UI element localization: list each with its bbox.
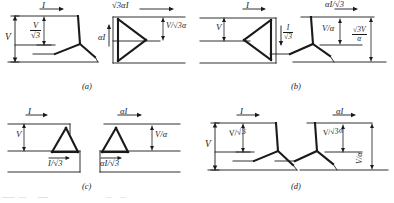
- b-secondary-line-voltage-den: α: [352, 34, 367, 43]
- b-secondary-conductors: [293, 17, 386, 62]
- figure-transformer-connections: I V V √3 √3αI αI V/√3α (a) I V I √3 αI/√…: [0, 0, 394, 203]
- a-primary-wye-star: [55, 16, 95, 57]
- d-secondary-wye-tails: [275, 161, 337, 170]
- a-primary-phase-voltage-num: V: [30, 21, 41, 30]
- a-primary-line-voltage-label: V: [5, 33, 11, 43]
- a-secondary-delta: [118, 19, 146, 61]
- b-primary-line-voltage-label: V: [216, 23, 222, 32]
- b-primary-delta: [244, 20, 271, 60]
- a-secondary-line-current-arrow: [140, 7, 174, 11]
- b-secondary-line-voltage-label: √3V α: [352, 26, 367, 42]
- b-secondary-wye-tails: [270, 54, 334, 62]
- a-primary-line-current-label: I: [42, 1, 45, 10]
- panel-caption-b: (b): [291, 81, 301, 91]
- a-primary-wye-tails: [33, 54, 98, 62]
- c-primary-phase-current-label: I/√3: [48, 159, 63, 168]
- c-primary-line-voltage-label: V: [16, 130, 22, 139]
- a-secondary-voltage-dimension: [161, 18, 165, 40]
- b-primary-line-current-label: I: [246, 1, 249, 10]
- a-primary-phase-voltage-label: V √3: [30, 21, 41, 39]
- b-primary-phase-current-num: I: [283, 24, 293, 32]
- cropped-caption-remnant: [2, 195, 130, 200]
- b-secondary-phase-voltage-label: V/α: [322, 24, 334, 33]
- b-secondary-line-current-label: αI/√3: [325, 0, 344, 9]
- c-primary-line-current-label: I: [28, 107, 31, 116]
- c-secondary-phase-current-label: αI/√3: [100, 159, 119, 168]
- panel-caption-c: (c): [82, 181, 91, 191]
- d-secondary-conductors: [300, 123, 388, 170]
- d-primary-V-dimension: [211, 123, 219, 170]
- diagram-lines: [0, 0, 394, 203]
- a-secondary-phase-current-label: αI: [98, 33, 106, 42]
- a-secondary-phase-current-arrow: [107, 24, 111, 46]
- panel-caption-a: (a): [82, 81, 92, 91]
- d-secondary-line-voltage-label: V/α: [356, 152, 364, 164]
- d-secondary-line-voltage-dimension: [370, 124, 374, 169]
- d-primary-conductors: [208, 123, 297, 170]
- b-primary-V-dimension: [222, 18, 226, 41]
- a-primary-wye-conductors: [8, 16, 98, 62]
- a-primary-V-dimension: [11, 16, 19, 62]
- d-primary-line-voltage-label: V: [205, 140, 211, 150]
- b-primary-phase-current-label: I √3: [283, 24, 293, 40]
- c-secondary-delta: [102, 128, 128, 152]
- c-primary-delta: [52, 128, 78, 152]
- d-primary-line-current-label: I: [240, 107, 243, 116]
- a-secondary-line-voltage-label: V/√3α: [166, 22, 186, 30]
- b-secondary-line-voltage-num: √3V: [352, 26, 367, 34]
- c-primary-V-dimension: [22, 124, 26, 151]
- c-secondary-line-current-label: αI: [120, 107, 128, 116]
- b-secondary-phase-voltage-dimension: [338, 19, 342, 44]
- b-secondary-line-voltage-dimension: [369, 18, 373, 61]
- b-primary-phase-current-den: √3: [283, 32, 293, 41]
- panel-caption-d: (d): [291, 181, 301, 191]
- a-secondary-line-current-label: √3αI: [112, 1, 129, 10]
- a-primary-phase-voltage-den: √3: [30, 30, 41, 40]
- c-secondary-voltage-dimension: [150, 126, 154, 150]
- d-secondary-line-current-label: αI: [336, 107, 344, 116]
- d-primary-wye-star: [254, 123, 293, 165]
- c-secondary-voltage-label: V/α: [155, 130, 167, 139]
- d-primary-wye-tails: [233, 161, 297, 170]
